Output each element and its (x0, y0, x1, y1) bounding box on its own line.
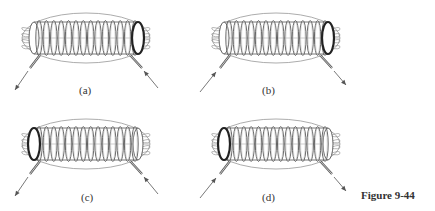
solenoid-panel-c (15, 119, 158, 196)
solenoid-panel-d (200, 119, 346, 198)
panel-label-b: (b) (262, 84, 275, 96)
solenoid-panel-b (200, 13, 346, 92)
panel-label-d: (d) (262, 191, 275, 203)
figure-caption: Figure 9-44 (361, 189, 415, 201)
solenoid-panel-a (15, 13, 158, 90)
panel-label-a: (a) (79, 84, 91, 96)
panel-label-c: (c) (81, 191, 93, 203)
solenoid-figure (0, 0, 435, 211)
